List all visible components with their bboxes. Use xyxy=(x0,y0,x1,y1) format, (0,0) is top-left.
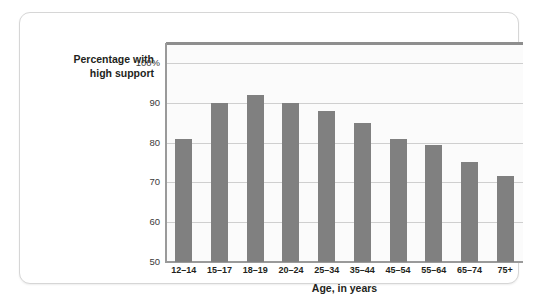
bar xyxy=(497,176,514,262)
bar xyxy=(461,162,478,262)
bar xyxy=(390,139,407,262)
bar xyxy=(211,103,228,262)
y-tick-label: 60 xyxy=(120,216,160,227)
y-tick-label: 100% xyxy=(120,57,160,68)
bar xyxy=(318,111,335,262)
bar xyxy=(354,123,371,262)
y-tick-label: 90 xyxy=(120,97,160,108)
y-tick-label: 80 xyxy=(120,137,160,148)
x-axis-title: Age, in years xyxy=(166,282,523,294)
bar-series xyxy=(166,43,523,262)
y-axis-label-line-2: high support xyxy=(44,67,154,81)
bar xyxy=(282,103,299,262)
bar xyxy=(425,145,442,262)
x-tick-label: 75+ xyxy=(482,265,528,275)
bar xyxy=(247,95,264,262)
chart-card: Percentage with high support 50607080901… xyxy=(19,12,519,284)
bar xyxy=(175,139,192,262)
chart-page: Percentage with high support 50607080901… xyxy=(0,0,540,301)
y-tick-label: 70 xyxy=(120,176,160,187)
y-tick-label: 50 xyxy=(120,256,160,267)
